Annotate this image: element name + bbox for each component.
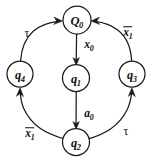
edge-label-a0: a0 bbox=[84, 108, 94, 120]
state-label-Q0: Q0 bbox=[71, 15, 84, 28]
edge-label-tau-lower-right: τ bbox=[124, 125, 129, 137]
state-label-q2: q2 bbox=[71, 137, 81, 150]
edge-q2-to-q4 bbox=[16, 88, 63, 139]
edge-Q0-to-q1 bbox=[73, 34, 80, 66]
state-label-q4: q4 bbox=[15, 69, 25, 82]
edge-label-tau-upper-left: τ bbox=[25, 27, 30, 39]
arrowhead-into-Q0-from-right bbox=[91, 17, 100, 25]
edge-label-x1-bar-lower-left: x1 bbox=[25, 128, 35, 140]
edge-q1-to-q2 bbox=[73, 92, 80, 130]
edge-label-x0: x0 bbox=[84, 39, 94, 51]
state-label-q3: q3 bbox=[127, 69, 137, 82]
edge-q3-to-Q0 bbox=[91, 17, 132, 61]
arrowhead-into-Q0-from-left bbox=[54, 17, 63, 25]
edge-label-x1-bar-upper-right: x1 bbox=[123, 27, 133, 39]
state-diagram-canvas: Q0 q1 q2 q3 q4 x0 a0 x1 τ τ x1 bbox=[0, 0, 154, 162]
state-label-q1: q1 bbox=[71, 73, 81, 86]
